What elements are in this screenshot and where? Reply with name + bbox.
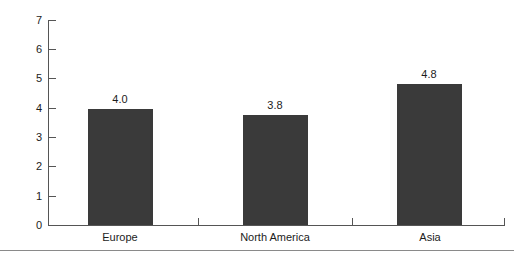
category-label-north-america: North America: [215, 231, 335, 243]
y-tick-label-6: 6: [20, 44, 42, 55]
bar-value-europe: 4.0: [80, 94, 160, 105]
y-tick-3: [48, 137, 56, 138]
x-tick-separator-2: [352, 218, 353, 226]
y-tick-5: [48, 78, 56, 79]
bar-europe: [88, 109, 153, 225]
bar-value-north-america: 3.8: [235, 100, 315, 111]
y-tick-4: [48, 108, 56, 109]
y-tick-label-1: 1: [20, 191, 42, 202]
bar-north-america: [243, 115, 308, 225]
bottom-divider: [0, 250, 514, 251]
y-tick-7: [48, 20, 56, 21]
x-axis-right-cap: [504, 218, 505, 226]
y-tick-label-5: 5: [20, 73, 42, 84]
bar-chart-figure: 7 6 5 4 3 2 1 0 4.0 3.8 4.8 Europe North…: [0, 0, 514, 261]
y-tick-label-4: 4: [20, 103, 42, 114]
y-tick-label-2: 2: [20, 161, 42, 172]
y-tick-2: [48, 166, 56, 167]
y-tick-label-0: 0: [20, 220, 42, 231]
y-tick-label-3: 3: [20, 132, 42, 143]
category-label-asia: Asia: [370, 231, 490, 243]
y-tick-label-7: 7: [20, 15, 42, 26]
category-label-europe: Europe: [60, 231, 180, 243]
y-tick-6: [48, 49, 56, 50]
x-tick-separator-1: [198, 218, 199, 226]
y-tick-1: [48, 196, 56, 197]
bar-asia: [397, 84, 462, 225]
bar-value-asia: 4.8: [389, 69, 469, 80]
x-axis-line: [48, 225, 505, 226]
